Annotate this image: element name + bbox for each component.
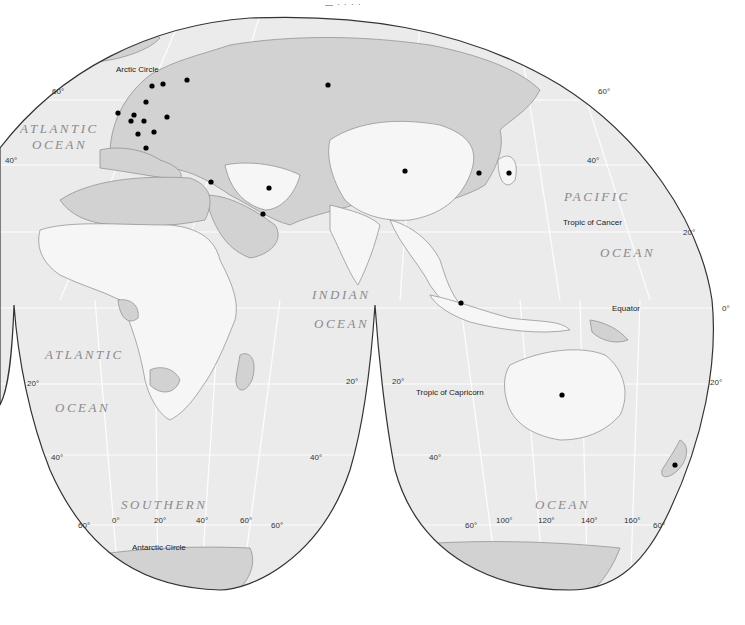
lon-label: 40° <box>196 516 208 525</box>
marker-poland <box>164 114 169 119</box>
equator-label: Equator <box>612 304 640 313</box>
lat-label: 60° <box>598 87 610 96</box>
antarctic-circle-label: Antarctic Circle <box>132 543 186 552</box>
marker-sweden <box>160 81 165 86</box>
tropic-of-capricorn-label: Tropic of Capricorn <box>416 388 484 397</box>
ocean-label-southern: SOUTHERN <box>121 497 207 512</box>
ocean-label-southern-ocean: OCEAN <box>535 497 590 512</box>
marker-italy <box>143 145 148 150</box>
lon-label: 160° <box>624 516 641 525</box>
marker-russia <box>325 82 330 87</box>
lat-label: 20° <box>710 378 722 387</box>
marker-belgium <box>128 118 133 123</box>
lat-label: 20° <box>27 379 39 388</box>
ocean-label-indian-ocean: OCEAN <box>314 316 369 331</box>
lat-label: 60° <box>52 87 64 96</box>
antarctica-east <box>405 542 620 600</box>
marker-singapore <box>458 300 463 305</box>
marker-israel <box>208 179 213 184</box>
marker-uk <box>115 110 120 115</box>
lat-label: 60° <box>465 521 477 530</box>
marker-austria <box>151 129 156 134</box>
lat-label: 40° <box>587 156 599 165</box>
lon-label: 120° <box>538 516 555 525</box>
lat-label: 20° <box>346 377 358 386</box>
marker-germany <box>141 118 146 123</box>
lat-label: 0° <box>722 304 730 313</box>
marker-china <box>402 168 407 173</box>
lat-label: 60° <box>271 521 283 530</box>
marker-finland <box>184 77 189 82</box>
marker-kuwait <box>260 211 265 216</box>
lon-label: 20° <box>154 516 166 525</box>
ocean-label-atlantic-south: ATLANTIC <box>44 347 124 362</box>
lat-label: 40° <box>5 156 17 165</box>
lon-label: 0° <box>112 516 120 525</box>
antarctica-west <box>95 547 253 600</box>
ocean-label-atlantic-north: ATLANTIC <box>19 121 99 136</box>
lon-label: 60° <box>240 516 252 525</box>
ocean-label-atlantic-south-ocean: OCEAN <box>55 400 110 415</box>
marker-japan <box>506 170 511 175</box>
lon-label: 140° <box>581 516 598 525</box>
lat-label: 60° <box>78 521 90 530</box>
lon-label: 100° <box>496 516 513 525</box>
lat-label: 20° <box>392 377 404 386</box>
arctic-circle-label: Arctic Circle <box>116 65 159 74</box>
tropic-of-cancer-label: Tropic of Cancer <box>563 218 622 227</box>
marker-australia <box>559 392 564 397</box>
marker-france <box>135 131 140 136</box>
ocean-label-atlantic-north-ocean: OCEAN <box>32 137 87 152</box>
marker-norway <box>149 83 154 88</box>
lat-label: 40° <box>51 453 63 462</box>
ocean-label-pacific-ocean: OCEAN <box>600 245 655 260</box>
marker-netherlands <box>131 112 136 117</box>
marker-denmark <box>143 99 148 104</box>
marker-new_zealand <box>672 462 677 467</box>
lat-label: 20° <box>683 228 695 237</box>
lat-label: 40° <box>429 453 441 462</box>
ocean-label-indian: INDIAN <box>311 287 370 302</box>
marker-korea <box>476 170 481 175</box>
lat-label: 40° <box>310 453 322 462</box>
lat-label: 60° <box>653 521 665 530</box>
world-map: ATLANTIC OCEAN ATLANTIC OCEAN INDIAN OCE… <box>0 0 745 625</box>
marker-iran <box>266 185 271 190</box>
ocean-label-pacific: PACIFIC <box>563 189 630 204</box>
